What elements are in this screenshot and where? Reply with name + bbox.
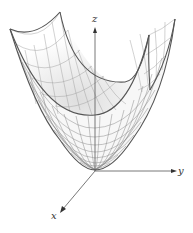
x-axis [63,171,95,209]
z-axis-arrow-icon [93,27,97,33]
surface-plot [0,0,193,233]
x-axis-label: x [51,211,57,221]
y-axis-arrow-icon [171,169,177,173]
y-axis-label: y [178,166,184,176]
z-axis-label: z [92,14,97,24]
paraboloid-figure: z y x [0,0,193,233]
